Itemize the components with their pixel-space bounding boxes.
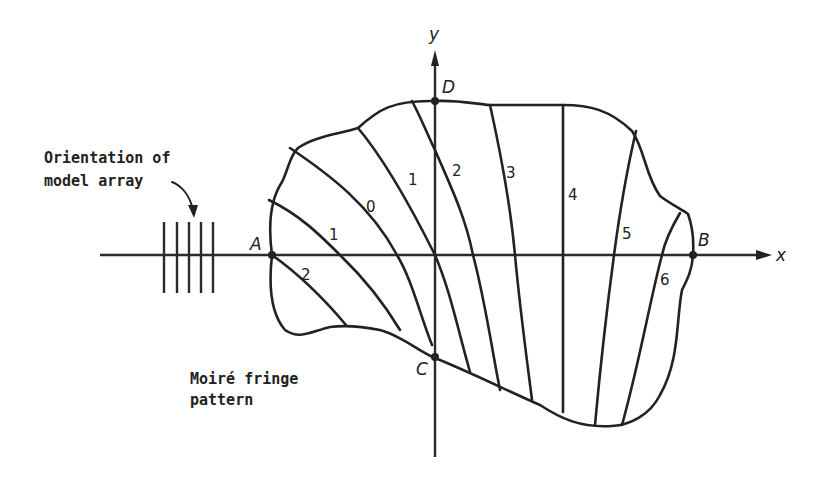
point-b-label: B (698, 230, 710, 250)
fringe-order-2-left: 2 (301, 266, 311, 284)
model-array-caption-line2: model array (44, 172, 143, 190)
fringe-order-6: 6 (660, 271, 670, 289)
point-d-label: D (442, 77, 455, 97)
x-axis-label: x (775, 245, 787, 265)
fringe-6 (622, 213, 680, 425)
point-a-marker (268, 251, 276, 259)
fringe-2 (412, 101, 500, 390)
fringe-order-3: 3 (506, 164, 516, 182)
point-c-label: C (416, 359, 428, 379)
model-array-arrow-icon (188, 205, 198, 218)
fringe-order-2: 2 (452, 162, 462, 180)
moire-caption-line1: Moiré fringe (190, 370, 298, 388)
y-axis-arrow-icon (431, 50, 439, 66)
fringe-order-5: 5 (622, 225, 632, 243)
fringe-order-0: 0 (366, 198, 376, 216)
point-a-label: A (249, 234, 262, 254)
fringe-order-4: 4 (568, 186, 578, 204)
model-boundary (270, 101, 693, 426)
moire-caption-line2: pattern (190, 391, 253, 409)
y-axis-label: y (428, 24, 440, 44)
point-c-marker (431, 353, 439, 361)
x-axis-arrow-icon (756, 250, 772, 260)
model-array-lines (164, 222, 213, 293)
fringe-order-1-upper: 1 (408, 171, 418, 189)
fringe-order-1-left: 1 (329, 226, 339, 244)
fringe-5 (595, 131, 636, 425)
model-array-caption-line1: Orientation of (44, 149, 170, 167)
moire-fringe-diagram: x y A B C D 2 1 0 1 2 3 4 5 (0, 0, 821, 485)
fringe-3 (490, 105, 532, 400)
point-d-marker (431, 97, 439, 105)
point-b-marker (689, 251, 697, 259)
